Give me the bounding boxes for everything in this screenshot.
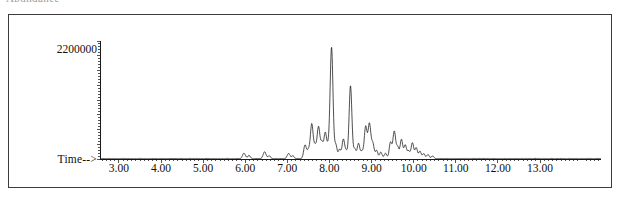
clipped-caption-text: Abundance	[6, 0, 126, 4]
y-axis-ticks	[97, 41, 101, 159]
x-tick-label: 12.00	[485, 162, 511, 174]
x-axis-tick-labels: 3.004.005.006.007.008.009.0010.0011.0012…	[109, 162, 553, 174]
x-tick-label: 8.00	[319, 162, 339, 174]
x-tick-label: 4.00	[151, 162, 171, 174]
chromatogram-svg: 2200000 Time--> 3.004.005.006.007.008.00…	[9, 15, 613, 189]
y-axis-label: 2200000	[57, 43, 98, 55]
chromatogram-frame: 2200000 Time--> 3.004.005.006.007.008.00…	[8, 14, 612, 188]
chromatogram-plot: 2200000 Time--> 3.004.005.006.007.008.00…	[9, 15, 613, 189]
x-tick-label: 3.00	[109, 162, 129, 174]
x-axis-title: Time-->	[58, 153, 97, 165]
x-axis-ticks	[102, 159, 599, 163]
x-tick-label: 9.00	[362, 162, 382, 174]
x-tick-label: 7.00	[277, 162, 297, 174]
x-tick-label: 13.00	[527, 162, 553, 174]
x-tick-label: 10.00	[401, 162, 427, 174]
x-tick-label: 5.00	[193, 162, 213, 174]
x-tick-label: 11.00	[443, 162, 469, 174]
chromatogram-trace	[100, 47, 601, 159]
clipped-caption: Abundance	[6, 0, 126, 5]
x-tick-label: 6.00	[235, 162, 255, 174]
